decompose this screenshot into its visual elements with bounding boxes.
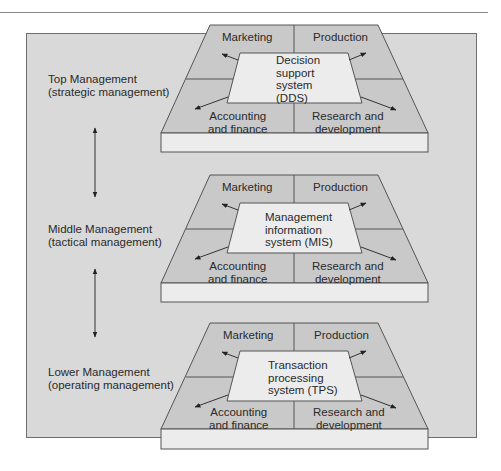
level-subtitle: (tactical management)	[48, 236, 162, 249]
level-label-lower: Lower Management (operating management)	[48, 366, 174, 392]
dept-production: Production	[313, 31, 368, 44]
level-subtitle: (operating management)	[48, 379, 174, 392]
level-label-top: Top Management (strategic management)	[48, 73, 169, 99]
level-subtitle: (strategic management)	[48, 86, 169, 99]
dept-production: Production	[314, 329, 369, 342]
dept-accounting: Accounting and finance	[208, 110, 267, 136]
level-title: Lower Management	[48, 366, 174, 379]
system-mis: Management information system (MIS)	[265, 211, 333, 249]
system-tps: Transaction processing system (TPS)	[268, 359, 338, 397]
level-title: Top Management	[48, 73, 169, 86]
system-dss: Decision support system (DDS)	[276, 54, 320, 104]
dept-production: Production	[313, 181, 368, 194]
level-title: Middle Management	[48, 223, 162, 236]
dept-marketing: Marketing	[222, 181, 273, 194]
dept-accounting: Accounting and finance	[209, 406, 268, 432]
level-label-middle: Middle Management (tactical management)	[48, 223, 162, 249]
dept-accounting: Accounting and finance	[208, 260, 267, 286]
dept-marketing: Marketing	[222, 31, 273, 44]
dept-research: Research and development	[312, 110, 384, 136]
dept-marketing: Marketing	[223, 329, 274, 342]
dept-research: Research and development	[313, 406, 385, 432]
dept-research: Research and development	[312, 260, 384, 286]
